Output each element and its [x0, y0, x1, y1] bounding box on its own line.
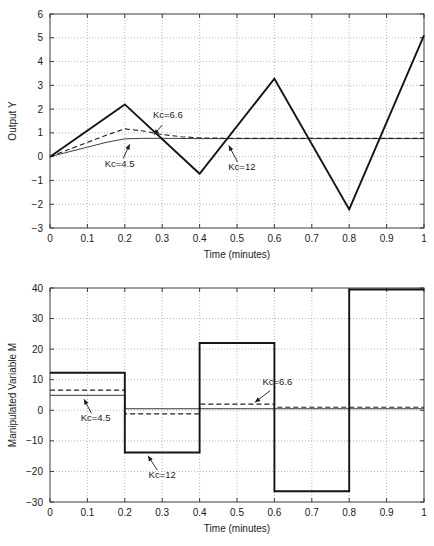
- y-tick-label: 10: [32, 374, 44, 385]
- y-tick-label: 1: [37, 127, 43, 138]
- chart-panel-output-y: 00.10.20.30.40.50.60.70.80.91−3−2−101234…: [0, 0, 434, 272]
- x-tick-label: 0.4: [193, 233, 207, 244]
- y-tick-label: 5: [37, 32, 43, 43]
- x-tick-label: 0.2: [118, 233, 132, 244]
- y-tick-label: 30: [32, 313, 44, 324]
- chart-svg-output-y: 00.10.20.30.40.50.60.70.80.91−3−2−101234…: [0, 0, 434, 272]
- annotation-label: Kc=12: [149, 469, 176, 480]
- y-tick-label: 4: [37, 56, 43, 67]
- series-line-kc-4-5: [50, 138, 424, 156]
- chart-panel-manipulated-variable-m: 00.10.20.30.40.50.60.70.80.91−30−20−1001…: [0, 274, 434, 546]
- x-tick-label: 0.3: [155, 233, 169, 244]
- annotation-label: Kc=6.6: [262, 376, 292, 387]
- annotation-label: Kc=4.5: [105, 158, 135, 169]
- x-tick-label: 0: [47, 507, 53, 518]
- y-tick-label: 40: [32, 283, 44, 294]
- x-tick-label: 0.9: [380, 233, 394, 244]
- x-axis-title: Time (minutes): [204, 523, 270, 534]
- x-tick-label: 0.9: [380, 507, 394, 518]
- x-tick-label: 0: [47, 233, 53, 244]
- y-tick-label: −20: [26, 466, 43, 477]
- x-tick-label: 0.5: [230, 507, 244, 518]
- y-tick-label: 6: [37, 9, 43, 20]
- x-tick-label: 1: [421, 507, 427, 518]
- x-tick-label: 0.7: [305, 233, 319, 244]
- annotation-label: Kc=4.5: [81, 412, 111, 423]
- y-tick-label: 2: [37, 104, 43, 115]
- x-tick-label: 0.6: [267, 507, 281, 518]
- y-tick-label: −1: [32, 175, 44, 186]
- annotation-label: Kc=6.6: [153, 109, 183, 120]
- x-tick-label: 0.4: [193, 507, 207, 518]
- x-tick-label: 0.1: [80, 233, 94, 244]
- annotation-arrowhead: [148, 456, 153, 462]
- chart-svg-manipulated-variable-m: 00.10.20.30.40.50.60.70.80.91−30−20−1001…: [0, 274, 434, 546]
- annotation-kc-12: Kc=12: [228, 145, 255, 171]
- y-axis-output-y: −3−2−10123456: [32, 9, 424, 234]
- y-tick-label: 0: [37, 151, 43, 162]
- x-axis-title: Time (minutes): [204, 249, 270, 260]
- y-axis-title: Output Y: [7, 101, 18, 141]
- x-tick-label: 0.7: [305, 507, 319, 518]
- annotation-arrowhead: [255, 397, 261, 402]
- y-tick-label: 0: [37, 405, 43, 416]
- gridlines-output-y: [50, 14, 424, 228]
- figure-container: 00.10.20.30.40.50.60.70.80.91−3−2−101234…: [0, 0, 434, 546]
- y-tick-label: 3: [37, 80, 43, 91]
- x-tick-label: 0.8: [342, 233, 356, 244]
- y-axis-title: Manipulated Variable M: [7, 343, 18, 447]
- x-tick-label: 0.2: [118, 507, 132, 518]
- annotation-kc-6-6: Kc=6.6: [153, 109, 183, 135]
- y-tick-label: −30: [26, 497, 43, 508]
- x-tick-label: 1: [421, 233, 427, 244]
- x-tick-label: 0.5: [230, 233, 244, 244]
- y-tick-label: −3: [32, 223, 44, 234]
- x-tick-label: 0.3: [155, 507, 169, 518]
- x-tick-label: 0.1: [80, 507, 94, 518]
- x-tick-label: 0.8: [342, 507, 356, 518]
- annotation-kc-4-5: Kc=4.5: [81, 399, 111, 423]
- y-tick-label: −2: [32, 199, 44, 210]
- y-tick-label: −10: [26, 435, 43, 446]
- plot-frame: [50, 14, 424, 228]
- y-tick-label: 20: [32, 344, 44, 355]
- annotation-label: Kc=12: [228, 161, 255, 172]
- x-tick-label: 0.6: [267, 233, 281, 244]
